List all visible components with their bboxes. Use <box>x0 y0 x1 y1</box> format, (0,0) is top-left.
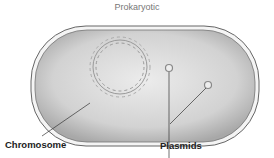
plasmids-label: Plasmids <box>160 140 202 151</box>
chromosome-label: Chromosome <box>5 139 66 150</box>
plasmid-1 <box>166 65 173 72</box>
plasmid-2 <box>205 82 212 89</box>
prokaryotic-cell-illustration <box>0 0 274 158</box>
cell-body <box>31 26 259 146</box>
